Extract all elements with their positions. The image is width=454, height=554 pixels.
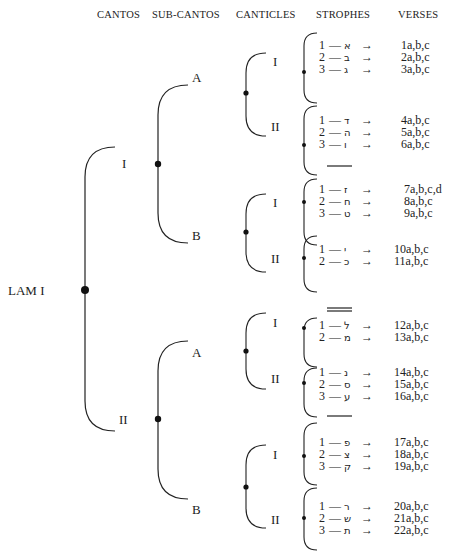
hebrew-letter: ה — [344, 127, 351, 138]
dash: — — [328, 137, 342, 151]
verse-range: 9a,b,c — [404, 206, 433, 220]
arrow-icon: → — [361, 459, 373, 473]
strophe-number: 3 — [319, 206, 325, 220]
hebrew-letter: ו — [344, 139, 347, 150]
canticle-dot-2B — [243, 484, 248, 489]
strophe-bracket — [304, 33, 317, 103]
strophe-bracket — [304, 179, 317, 245]
verse-range: 13a,b,c — [394, 330, 429, 344]
strophe-number: 3 — [319, 389, 325, 403]
dash: — — [328, 389, 342, 403]
hebrew-letter: ע — [344, 391, 350, 402]
dash: — — [328, 254, 342, 268]
strophe-brackets — [302, 33, 317, 550]
verse-range: 6a,b,c — [401, 137, 430, 151]
column-headers: CANTOS SUB-CANTOS CANTICLES STROPHES VER… — [97, 9, 438, 20]
lam-structure-diagram: CANTOS SUB-CANTOS CANTICLES STROPHES VER… — [0, 0, 454, 554]
strophe-row: 3 — ת → 22a,b,c — [319, 523, 429, 537]
strophe-row: 2 — מ → 13a,b,c — [319, 330, 429, 344]
canticle-dot-2A — [243, 348, 248, 353]
hebrew-letter: י — [344, 244, 346, 255]
strophe-number: 3 — [319, 459, 325, 473]
strophe-bracket — [304, 318, 317, 367]
canto-label-2: II — [119, 412, 128, 427]
dash: — — [328, 523, 342, 537]
strophe-number: 2 — [319, 254, 325, 268]
strophe-dot — [302, 381, 306, 385]
canticle-label: I — [273, 54, 277, 69]
strophe-row: 3 — ט → 9a,b,c — [319, 206, 433, 220]
hebrew-letter: ר — [344, 501, 350, 512]
canticle-bracket-1B — [246, 194, 266, 272]
dash: — — [328, 62, 342, 76]
hebrew-letter: ס — [344, 379, 351, 390]
strophe-number: 3 — [319, 137, 325, 151]
header-sub-cantos: SUB-CANTOS — [152, 9, 220, 20]
root-bracket — [85, 147, 115, 431]
strophe-rows: 1 — א → 1a,b,c 2 — ב → 2a,b,c 3 — ג → 3a… — [319, 38, 442, 537]
root-node-dot — [81, 286, 89, 294]
hebrew-letter: צ — [344, 449, 350, 460]
subcanto-label-1B: B — [192, 228, 201, 243]
verse-range: 3a,b,c — [401, 62, 430, 76]
strophe-row: 3 — ק → 19a,b,c — [319, 459, 429, 473]
strophe-number: 2 — [319, 330, 325, 344]
verse-range: 16a,b,c — [394, 389, 429, 403]
strophe-bracket — [304, 423, 317, 485]
header-strophes: STROPHES — [316, 9, 370, 20]
arrow-icon: → — [361, 206, 373, 220]
strophe-bracket — [304, 368, 317, 417]
canticle-label: II — [271, 251, 280, 266]
hebrew-letter: ט — [344, 208, 350, 219]
strophe-bracket — [304, 488, 317, 550]
hebrew-letter: פ — [344, 437, 350, 448]
strophe-row: 2 — כ → 11a,b,c — [319, 254, 428, 268]
strophe-dot — [302, 256, 306, 260]
subcanto-label-2B: B — [192, 502, 201, 517]
header-cantos: CANTOS — [97, 9, 140, 20]
hebrew-letter: כ — [344, 256, 349, 267]
canticle-label: II — [271, 512, 280, 527]
canticle-bracket-2B — [246, 445, 266, 528]
hebrew-letter: ז — [344, 184, 348, 195]
hebrew-letter: ב — [344, 52, 350, 63]
arrow-icon: → — [361, 389, 373, 403]
arrow-icon: → — [361, 137, 373, 151]
strophe-dot — [302, 326, 306, 330]
canto-label-1: I — [122, 156, 126, 171]
hebrew-letter: ח — [344, 196, 351, 207]
canticle-label: I — [273, 195, 277, 210]
dash: — — [328, 206, 342, 220]
canto-1-dot — [155, 161, 161, 167]
strophe-dot — [302, 200, 306, 204]
hebrew-letter: ג — [344, 64, 348, 75]
arrow-icon: → — [361, 62, 373, 76]
canticle-bracket-2A — [246, 313, 266, 389]
hebrew-letter: א — [344, 40, 351, 51]
dash: — — [328, 459, 342, 473]
canticle-label: I — [273, 315, 277, 330]
hebrew-letter: ק — [344, 461, 351, 472]
canticle-dot-1B — [243, 229, 248, 234]
hebrew-letter: נ — [344, 367, 348, 378]
arrow-icon: → — [361, 523, 373, 537]
strophe-row: 3 — ע → 16a,b,c — [319, 389, 429, 403]
canticle-brackets — [243, 53, 266, 528]
hebrew-letter: ד — [344, 115, 350, 126]
canticle-label: I — [273, 447, 277, 462]
canto-2-bracket — [158, 341, 188, 499]
header-canticles: CANTICLES — [236, 9, 296, 20]
hebrew-letter: מ — [344, 332, 351, 343]
strophe-number: 3 — [319, 523, 325, 537]
canticle-label: II — [271, 371, 280, 386]
hebrew-letter: ל — [344, 320, 350, 331]
strophe-row: 3 — ו → 6a,b,c — [319, 137, 430, 151]
verse-range: 11a,b,c — [394, 254, 428, 268]
dash: — — [328, 330, 342, 344]
verse-range: 22a,b,c — [394, 523, 429, 537]
strophe-row: 3 — ג → 3a,b,c — [319, 62, 430, 76]
subcanto-label-1A: A — [192, 70, 202, 85]
strophe-dot — [302, 516, 306, 520]
canto-2-dot — [155, 416, 161, 422]
strophe-number: 3 — [319, 62, 325, 76]
